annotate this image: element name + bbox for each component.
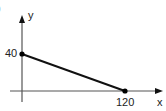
y-axis-arrow-icon: [19, 15, 25, 23]
x-tick-label: 120: [116, 97, 134, 108]
x-axis-label: x: [157, 97, 163, 108]
y-tick-label: 40: [5, 48, 17, 59]
data-line: [22, 54, 125, 91]
chart-canvas: [0, 0, 166, 111]
line-chart: ) y x 40 120: [0, 0, 166, 111]
x-axis-arrow-icon: [155, 88, 163, 94]
data-point-y-intercept: [19, 51, 24, 56]
data-point-x-intercept: [122, 88, 127, 93]
y-axis-label: y: [28, 10, 34, 21]
panel-label-partial: ): [0, 2, 1, 14]
